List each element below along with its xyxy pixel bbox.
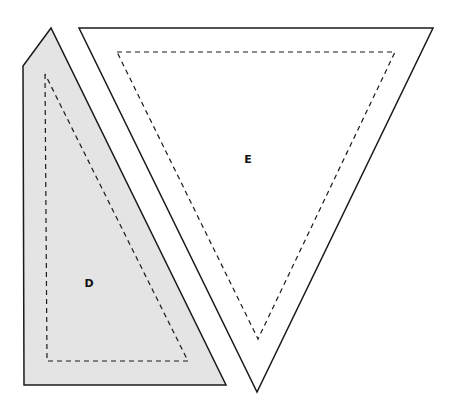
piece-e-label: E [244, 153, 252, 166]
pattern-diagram: D E [0, 0, 456, 410]
piece-d-label: D [84, 277, 93, 290]
